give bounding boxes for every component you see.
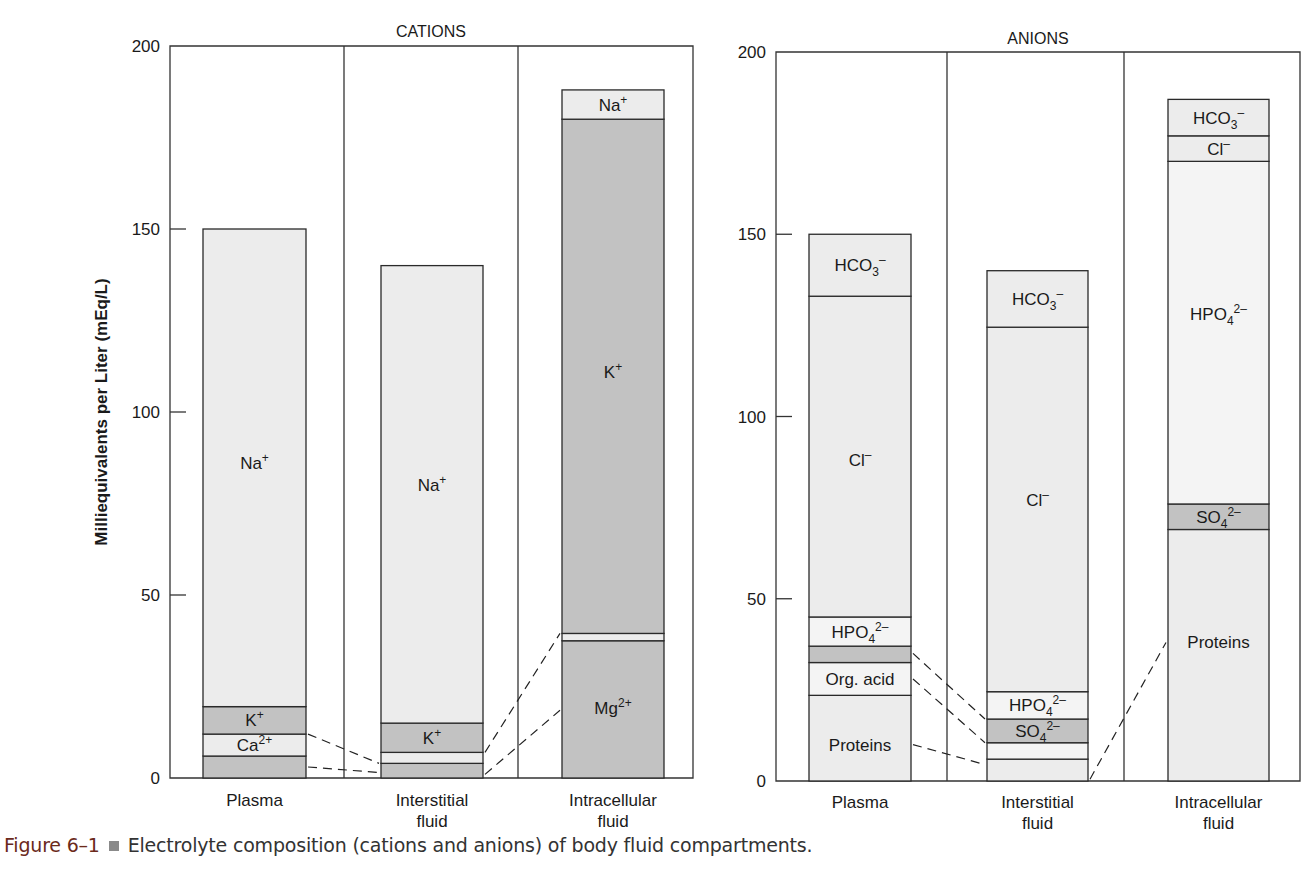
x-category-label: Intracellular (1175, 793, 1263, 812)
stacked-bar-intracellular-fluid: Mg2+K+Na+ (562, 90, 664, 778)
bar-segment (381, 752, 483, 763)
dashed-connector (913, 653, 985, 719)
dashed-connector (485, 633, 560, 752)
bar-segment (809, 646, 911, 662)
x-category-label: Intracellular (569, 791, 657, 810)
stacked-bar-plasma: ProteinsOrg. acidHPO42–Cl–HCO3– (809, 234, 911, 781)
bar-segment (203, 756, 306, 778)
chart-title: CATIONS (396, 23, 466, 40)
stacked-bar-interstitial-fluid: K+Na+ (381, 266, 483, 778)
x-category-label: fluid (1203, 814, 1234, 833)
bar-segment (381, 763, 483, 778)
y-tick-label: 100 (132, 403, 160, 422)
y-axis-label: Milliequivalents per Liter (mEq/L) (92, 278, 111, 545)
y-tick-label: 50 (747, 590, 766, 609)
y-tick-label: 100 (738, 408, 766, 427)
anions-chart: ANIONS050100150200ProteinsOrg. acidHPO42… (738, 30, 1300, 833)
bar-segment (987, 743, 1088, 759)
chart-title: ANIONS (1007, 30, 1068, 47)
segment-label: Org. acid (826, 670, 895, 689)
segment-label: Proteins (1187, 633, 1249, 652)
x-category-label: fluid (416, 812, 447, 831)
dashed-connector (485, 710, 560, 774)
y-tick-label: 200 (738, 43, 766, 62)
y-tick-label: 0 (757, 772, 766, 791)
x-category-label: Interstitial (396, 791, 469, 810)
y-tick-label: 150 (738, 225, 766, 244)
y-tick-label: 50 (141, 586, 160, 605)
figure-number: Figure 6–1 (4, 834, 100, 856)
x-category-label: fluid (597, 812, 628, 831)
figure-caption: Figure 6–1Electrolyte composition (catio… (4, 834, 812, 856)
y-tick-label: 150 (132, 220, 160, 239)
y-tick-label: 200 (132, 37, 160, 56)
x-category-label: Plasma (226, 791, 283, 810)
dashed-connector (1090, 642, 1166, 779)
x-category-label: fluid (1022, 814, 1053, 833)
stacked-bar-plasma: Ca2+K+Na+ (203, 229, 306, 778)
dashed-connector (913, 745, 985, 765)
electrolyte-figure: CATIONS050100150200Ca2+K+Na+K+Na+Mg2+K+N… (0, 0, 1316, 869)
cations-chart: CATIONS050100150200Ca2+K+Na+K+Na+Mg2+K+N… (132, 23, 693, 831)
x-category-label: Plasma (832, 793, 889, 812)
y-tick-label: 0 (151, 769, 160, 788)
stacked-bar-intracellular-fluid: ProteinsSO42–HPO42–Cl–HCO3– (1168, 99, 1269, 781)
stacked-bar-interstitial-fluid: SO42–HPO42–Cl–HCO3– (987, 271, 1088, 781)
caption-square-icon (109, 841, 119, 851)
caption-text: Electrolyte composition (cations and ani… (128, 834, 813, 856)
bar-segment (1168, 161, 1269, 504)
bar-segment (987, 759, 1088, 781)
dashed-connector (913, 679, 985, 743)
bar-segment (562, 633, 664, 640)
bar-segment (1168, 529, 1269, 781)
x-category-label: Interstitial (1001, 793, 1074, 812)
segment-label: Proteins (829, 736, 891, 755)
